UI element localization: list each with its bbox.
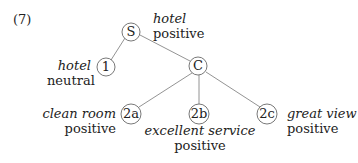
n2c-sentiment: positive — [287, 121, 357, 136]
node-2a-label: 2a — [119, 106, 143, 121]
edge-s-1 — [111, 38, 125, 60]
n2b-aspect: excellent service — [140, 123, 260, 138]
n2b-sentiment: positive — [140, 138, 260, 153]
n2a-sentiment: positive — [20, 121, 116, 136]
node-2c-label: 2c — [255, 106, 279, 121]
node-2c-annotation: great view positive — [287, 106, 357, 136]
node-1-annotation: hotel — [30, 58, 91, 73]
node-2a-annotation: clean room positive — [20, 106, 116, 136]
s-sentiment: positive — [153, 26, 204, 41]
s-aspect: hotel — [153, 11, 186, 26]
node-2b-label: 2b — [187, 106, 211, 121]
edge-c-2a — [139, 73, 192, 107]
tree-edges — [111, 35, 260, 107]
node-2b-annotation: excellent service positive — [140, 123, 260, 153]
tree-diagram: (7) S 1 C 2a 2b 2c hotel positive hotel … — [0, 0, 358, 163]
node-s-label: S — [122, 24, 140, 39]
node-c-label: C — [189, 58, 207, 73]
n1-aspect: hotel — [30, 58, 91, 73]
n2a-aspect: clean room — [20, 106, 116, 121]
edge-c-2c — [206, 72, 260, 107]
n2c-aspect: great view — [287, 106, 357, 121]
node-1-label: 1 — [97, 59, 115, 74]
n1-sentiment: neutral — [47, 73, 95, 88]
